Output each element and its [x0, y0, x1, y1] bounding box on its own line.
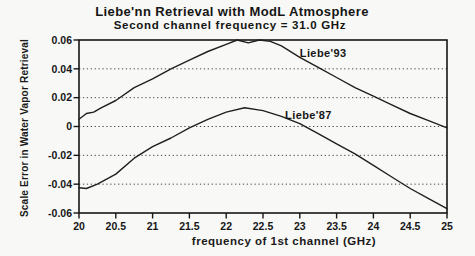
- x-tick-label: 25: [441, 220, 453, 232]
- x-tick-label: 21.5: [179, 220, 200, 232]
- figure: Liebe'nn Retrieval with ModL Atmosphere …: [0, 0, 475, 256]
- x-tick-label: 20: [73, 220, 85, 232]
- y-tick-label: 0.04: [52, 63, 73, 75]
- y-tick-label: -0.04: [48, 178, 72, 190]
- y-tick-label: 0: [66, 120, 72, 132]
- y-tick-label: 0.02: [52, 91, 73, 103]
- series-line-liebe87: [79, 108, 447, 209]
- x-tick-label: 22: [220, 220, 232, 232]
- series-label: Liebe'93: [300, 47, 347, 59]
- x-tick-label: 23: [294, 220, 306, 232]
- x-tick-label: 23.5: [326, 220, 347, 232]
- y-tick-label: -0.02: [48, 149, 72, 161]
- y-tick-label: -0.06: [48, 207, 72, 219]
- x-tick-label: 22.5: [253, 220, 274, 232]
- x-tick-label: 21: [147, 220, 159, 232]
- series-label: Liebe'87: [285, 109, 332, 121]
- y-tick-label: 0.06: [52, 34, 73, 46]
- x-tick-label: 20.5: [106, 220, 127, 232]
- x-tick-label: 24.5: [400, 220, 421, 232]
- plot-area: 0.060.040.020-0.02-0.04-0.062020.52121.5…: [0, 0, 475, 256]
- series-line-liebe93: [79, 40, 447, 128]
- x-tick-label: 24: [368, 220, 380, 232]
